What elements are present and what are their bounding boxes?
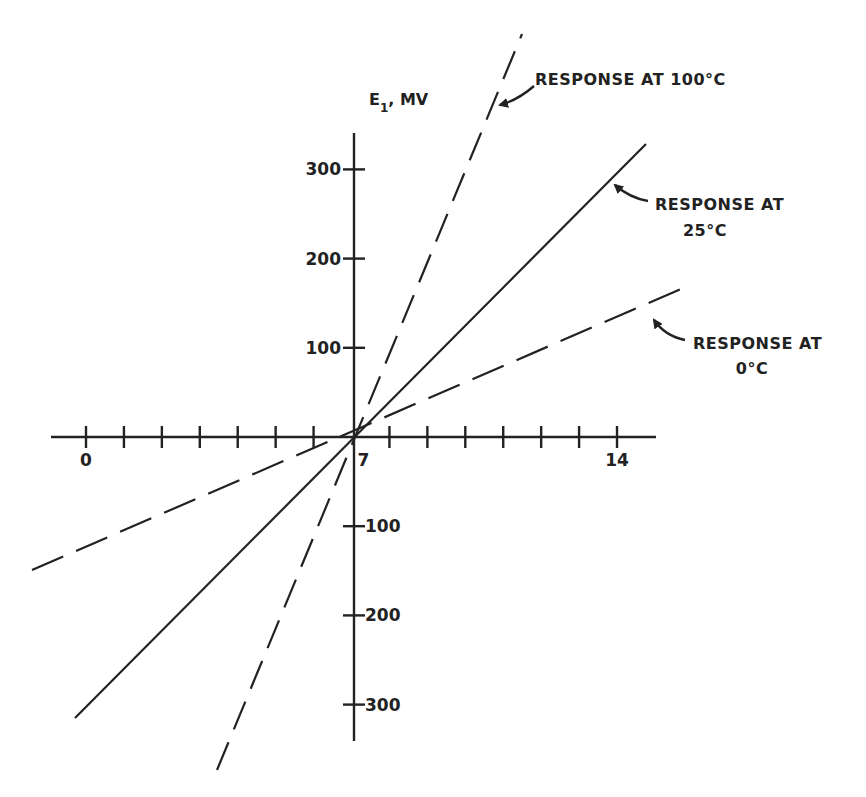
- label-response-0c-line2: 0°C: [736, 359, 768, 378]
- y-tick-label: 100: [365, 516, 401, 536]
- line-response-100c: [217, 34, 522, 770]
- series-lines: [32, 34, 690, 770]
- label-response-25c-line1: RESPONSE AT: [655, 195, 784, 214]
- x-tick-label: 14: [605, 450, 629, 470]
- arrow-25c-icon: [615, 185, 648, 201]
- y-tick-label: 100: [306, 338, 342, 358]
- y-tick-label: 200: [365, 605, 401, 625]
- line-response-25c: [75, 144, 646, 718]
- y-tick-label: 300: [365, 695, 401, 715]
- label-response-100c: RESPONSE AT 100°C: [535, 70, 726, 89]
- arrow-0c-icon: [654, 320, 685, 340]
- y-axis-title: E1, MV: [369, 90, 429, 115]
- ph-response-chart: 0714 300200100100200300 E1, MV RESPONSE …: [0, 0, 866, 797]
- label-response-25c-line2: 25°C: [683, 221, 727, 240]
- label-response-0c-line1: RESPONSE AT: [693, 334, 822, 353]
- y-tick-label: 200: [306, 249, 342, 269]
- y-tick-label: 300: [306, 159, 342, 179]
- x-tick-label: 0: [80, 450, 92, 470]
- arrow-100c-icon: [500, 86, 534, 105]
- x-tick-label: 7: [358, 450, 370, 470]
